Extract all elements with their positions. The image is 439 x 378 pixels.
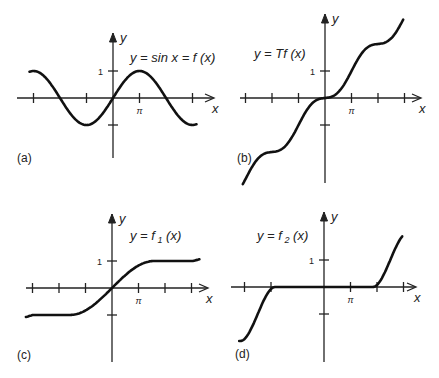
panel-a-sine: 1πxy(a)y = sin x = f (x) [17, 30, 219, 165]
x-axis-label: x [418, 101, 426, 116]
y-tick-label: 1 [309, 256, 314, 266]
x-axis-label: x [413, 290, 421, 305]
pi-tick-label: π [137, 106, 144, 116]
function-curve [243, 20, 403, 185]
y-tick-label: 1 [310, 67, 315, 77]
panel-d-f2: 1πxy(d)y = f 2 (x) [231, 209, 421, 362]
y-tick-label: 1 [98, 67, 103, 77]
y-arrow-icon [322, 14, 329, 23]
y-arrow-icon [109, 214, 116, 223]
y-arrow-icon [110, 33, 117, 42]
panel-c-f1: 1πxy(c)y = f 1 (x) [17, 211, 213, 362]
x-axis-label: x [211, 101, 219, 116]
pi-tick-label: π [348, 295, 355, 305]
pi-tick-label: π [136, 296, 143, 306]
equation-label: y = f 2 (x) [256, 228, 308, 245]
panel-b-tf: 1πxy(b)y = Tf (x) [237, 11, 426, 184]
y-arrow-icon [321, 212, 328, 221]
equation-label: y = sin x = f (x) [129, 50, 215, 65]
y-axis-label: y [330, 209, 339, 224]
panel-label: (b) [237, 151, 252, 165]
equation-label: y = f 1 (x) [129, 228, 181, 245]
panel-label: (a) [17, 151, 32, 165]
panel-label: (c) [17, 348, 31, 362]
y-axis-label: y [118, 211, 127, 226]
figure-panels: 1πxy(a)y = sin x = f (x) 1πxy(b)y = Tf (… [0, 0, 439, 378]
y-tick-label: 1 [97, 257, 102, 267]
pi-tick-label: π [349, 106, 356, 116]
function-curve [239, 236, 402, 341]
y-axis-label: y [119, 30, 128, 45]
x-axis-label: x [205, 291, 213, 306]
equation-label: y = Tf (x) [253, 46, 306, 61]
panel-label: (d) [235, 347, 250, 361]
y-axis-label: y [331, 11, 340, 26]
